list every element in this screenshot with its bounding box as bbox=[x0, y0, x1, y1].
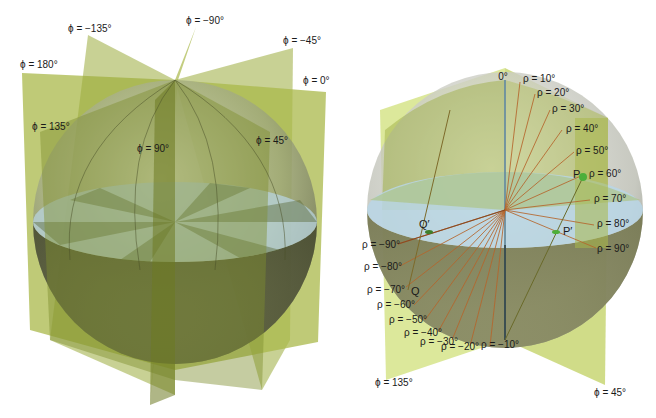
label-phi-45: ϕ = 45° bbox=[256, 135, 288, 146]
label-rho-neg70: ρ = −70° bbox=[367, 284, 405, 295]
label-rho-50: ρ = 50° bbox=[576, 145, 608, 156]
label-Q: Q bbox=[411, 285, 420, 297]
label-rho-neg90: ρ = −90° bbox=[362, 239, 400, 250]
label-P: P bbox=[573, 168, 580, 180]
label-rho-neg60: ρ = −60° bbox=[377, 299, 415, 310]
label-rho-40: ρ = 40° bbox=[566, 123, 598, 134]
label-rho-10: ρ = 10° bbox=[523, 73, 555, 84]
label-phi-180: ϕ = 180° bbox=[20, 59, 58, 70]
label-rho-90: ρ = 90° bbox=[597, 243, 629, 254]
label-rho-neg50: ρ = −50° bbox=[389, 314, 427, 325]
right-panel: 0° ρ = 10° ρ = 20° ρ = 30° ρ = 40° ρ = 5… bbox=[362, 68, 643, 398]
left-panel: ϕ = −135° ϕ = −90° ϕ = −45° ϕ = 180° ϕ =… bbox=[20, 15, 330, 405]
point-P-prime bbox=[552, 230, 560, 234]
label-rho-neg10: ρ = −10° bbox=[481, 339, 519, 350]
label-rho-neg20: ρ = −20° bbox=[441, 341, 479, 352]
label-rho-20: ρ = 20° bbox=[537, 87, 569, 98]
label-P-prime: P′ bbox=[563, 225, 572, 237]
label-rho-60: ρ = 60° bbox=[589, 168, 621, 179]
spherical-coordinates-diagram: ϕ = −135° ϕ = −90° ϕ = −45° ϕ = 180° ϕ =… bbox=[0, 0, 656, 418]
label-phi-135: ϕ = 135° bbox=[32, 121, 70, 132]
label-rho-neg80: ρ = −80° bbox=[364, 261, 402, 272]
point-Q-prime bbox=[425, 230, 433, 234]
label-rho-70: ρ = 70° bbox=[594, 193, 626, 204]
label-Q-prime: Q′ bbox=[419, 218, 430, 230]
label-phi-neg135: ϕ = −135° bbox=[68, 23, 112, 34]
label-phi-neg45: ϕ = −45° bbox=[283, 35, 321, 46]
plane-phi-45 bbox=[175, 80, 270, 390]
label-phi-135-right: ϕ = 135° bbox=[375, 377, 413, 388]
label-phi-neg90: ϕ = −90° bbox=[186, 15, 224, 26]
label-rho-30: ρ = 30° bbox=[552, 103, 584, 114]
label-rho-80: ρ = 80° bbox=[597, 218, 629, 229]
label-phi-45-right: ϕ = 45° bbox=[594, 387, 626, 398]
label-phi-90: ϕ = 90° bbox=[137, 143, 169, 154]
label-zero: 0° bbox=[498, 71, 508, 82]
label-phi-0: ϕ = 0° bbox=[303, 75, 330, 86]
